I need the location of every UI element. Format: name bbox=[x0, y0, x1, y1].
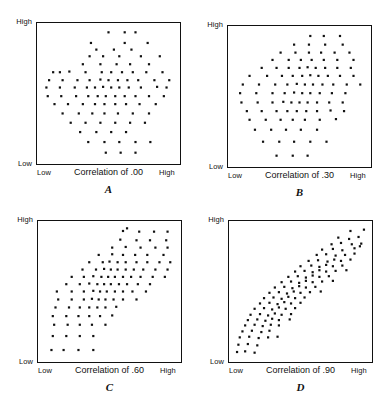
panel-d-scatter-svg bbox=[228, 220, 373, 363]
panel-d: High Low Low High Correlation of .90 D bbox=[192, 198, 384, 398]
panel-b-scatter-svg bbox=[227, 25, 372, 168]
panel-c-plot-area bbox=[37, 220, 182, 363]
panel-a-y-axis-high-label: High bbox=[0, 18, 32, 26]
panel-a: High Low Low High Correlation of .00 A bbox=[0, 0, 192, 200]
panel-b-y-axis-high-label: High bbox=[190, 21, 223, 29]
panel-b-plot-area bbox=[227, 25, 372, 168]
panel-a-letter: A bbox=[36, 184, 181, 195]
panel-a-caption: Correlation of .00 bbox=[36, 168, 181, 177]
panel-c-y-axis-low-label: Low bbox=[0, 358, 33, 366]
panel-d-caption: Correlation of .90 bbox=[228, 366, 373, 375]
panel-b-letter: B bbox=[227, 187, 372, 198]
panel-d-y-axis-low-label: Low bbox=[191, 358, 224, 366]
panel-d-plot-area bbox=[228, 220, 373, 363]
panel-c-caption: Correlation of .60 bbox=[37, 366, 182, 375]
panel-a-plot-area bbox=[36, 22, 181, 165]
correlation-scatterplot-figure: High Low Low High Correlation of .00 A H… bbox=[0, 0, 385, 410]
panel-a-y-axis-low-label: Low bbox=[0, 160, 32, 168]
panel-c-letter: C bbox=[37, 382, 182, 393]
panel-d-letter: D bbox=[228, 382, 373, 393]
panel-b-caption: Correlation of .30 bbox=[227, 171, 372, 180]
panel-a-scatter-svg bbox=[36, 22, 181, 165]
panel-d-y-axis-high-label: High bbox=[191, 216, 224, 224]
panel-c-y-axis-high-label: High bbox=[0, 216, 33, 224]
panel-b: High Low Low High Correlation of .30 B bbox=[191, 3, 383, 203]
panel-c-scatter-svg bbox=[37, 220, 182, 363]
panel-b-y-axis-low-label: Low bbox=[190, 163, 223, 171]
panel-c: High Low Low High Correlation of .60 C bbox=[1, 198, 193, 398]
